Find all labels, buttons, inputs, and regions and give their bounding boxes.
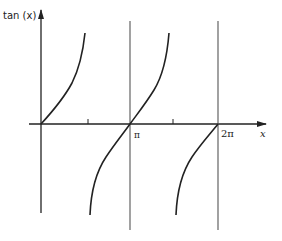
tan-branch-3 — [176, 124, 218, 215]
y-axis-label: tan (x) — [3, 10, 36, 21]
x-axis-label: x — [260, 128, 266, 139]
tan-x-chart: tan (x) π 2π x — [0, 0, 282, 241]
x-tick-label-pi: π — [134, 130, 140, 140]
tan-branch-1 — [41, 33, 85, 124]
x-tick-label-2pi: 2π — [221, 128, 234, 139]
